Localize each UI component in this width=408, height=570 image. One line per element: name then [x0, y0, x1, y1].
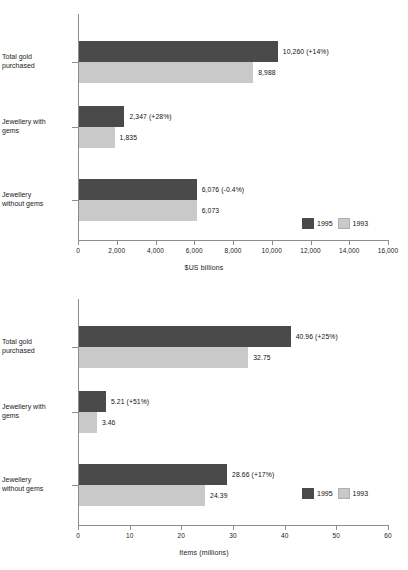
x-tick	[272, 240, 273, 245]
x-tick	[117, 240, 118, 245]
x-tick-label: 2,000	[108, 247, 125, 254]
x-tick	[233, 240, 234, 245]
legend-2: 1995 1993	[302, 488, 368, 499]
legend-item-1993: 1993	[338, 488, 369, 499]
x-tick-label: 50	[333, 532, 340, 539]
legend-swatch-1995-icon	[302, 488, 314, 499]
x-tick	[156, 240, 157, 245]
bar-chart-items-millions: 0102030405060 Total gold purchasedJewell…	[0, 285, 408, 570]
x-tick-label: 0	[76, 532, 80, 539]
x-tick-label: 20	[178, 532, 185, 539]
x-tick	[78, 240, 79, 245]
bar-1995	[79, 106, 124, 127]
legend-label-1995: 1995	[317, 220, 333, 227]
category-tick	[72, 347, 78, 348]
x-axis-title-2: Items (millions)	[0, 549, 408, 556]
bar-value-label: 2,347 (+28%)	[129, 113, 171, 120]
legend-label-1995: 1995	[317, 490, 333, 497]
bar-value-label: 1,835	[120, 134, 138, 141]
bar-1995	[79, 391, 106, 412]
category-tick	[72, 412, 78, 413]
x-tick-label: 10,000	[262, 247, 282, 254]
x-tick	[194, 240, 195, 245]
bar-value-label: 40.96 (+25%)	[296, 333, 338, 340]
category-label: Total gold purchased	[2, 53, 70, 70]
bar-value-label: 32.75	[253, 354, 271, 361]
legend-swatch-1995-icon	[302, 218, 314, 229]
legend-1: 1995 1993	[302, 218, 368, 229]
bar-value-label: 6,073	[202, 207, 220, 214]
bar-1993	[79, 62, 253, 83]
x-tick-label: 0	[76, 247, 80, 254]
category-label: Jewellery without gems	[2, 476, 70, 493]
bar-chart-us-billions: 02,0004,0006,0008,00010,00012,00014,0001…	[0, 0, 408, 285]
bar-value-label: 5.21 (+51%)	[111, 398, 149, 405]
x-tick	[349, 240, 350, 245]
x-tick	[336, 525, 337, 530]
x-tick-label: 60	[384, 532, 391, 539]
category-tick	[72, 200, 78, 201]
legend-swatch-1993-icon	[338, 488, 350, 499]
x-tick	[233, 525, 234, 530]
x-tick	[285, 525, 286, 530]
x-tick	[388, 525, 389, 530]
category-tick	[72, 485, 78, 486]
legend-item-1993: 1993	[338, 218, 369, 229]
bar-value-label: 28.66 (+17%)	[232, 471, 274, 478]
x-tick-label: 30	[229, 532, 236, 539]
x-tick-label: 6,000	[186, 247, 203, 254]
legend-label-1993: 1993	[353, 220, 369, 227]
bar-1993	[79, 485, 205, 506]
x-tick	[388, 240, 389, 245]
x-tick-label: 8,000	[225, 247, 242, 254]
category-label: Jewellery with gems	[2, 403, 70, 420]
legend-item-1995: 1995	[302, 218, 333, 229]
x-tick	[78, 525, 79, 530]
category-label: Jewellery with gems	[2, 118, 70, 135]
bar-1995	[79, 179, 197, 200]
bar-1993	[79, 347, 248, 368]
bar-value-label: 6,076 (-0.4%)	[202, 186, 244, 193]
category-label: Jewellery without gems	[2, 191, 70, 208]
bar-1995	[79, 326, 291, 347]
x-tick-label: 16,000	[378, 247, 398, 254]
x-tick-label: 4,000	[147, 247, 164, 254]
x-tick	[130, 525, 131, 530]
x-tick-label: 10	[126, 532, 133, 539]
category-tick	[72, 127, 78, 128]
legend-item-1995: 1995	[302, 488, 333, 499]
bar-1993	[79, 127, 115, 148]
bar-value-label: 8,988	[258, 69, 276, 76]
x-tick-label: 14,000	[339, 247, 359, 254]
x-axis-title-1: $US billions	[0, 264, 408, 271]
x-tick	[181, 525, 182, 530]
plot-area-1: 02,0004,0006,0008,00010,00012,00014,0001…	[78, 14, 388, 240]
bar-1993	[79, 200, 197, 221]
bar-1995	[79, 464, 227, 485]
bar-1995	[79, 41, 278, 62]
bar-value-label: 3.46	[102, 419, 116, 426]
x-tick-label: 40	[281, 532, 288, 539]
category-tick	[72, 62, 78, 63]
category-label: Total gold purchased	[2, 338, 70, 355]
x-tick	[311, 240, 312, 245]
bar-value-label: 10,260 (+14%)	[283, 48, 329, 55]
bar-1993	[79, 412, 97, 433]
legend-swatch-1993-icon	[338, 218, 350, 229]
bar-value-label: 24.39	[210, 492, 228, 499]
x-tick-label: 12,000	[300, 247, 320, 254]
legend-label-1993: 1993	[353, 490, 369, 497]
